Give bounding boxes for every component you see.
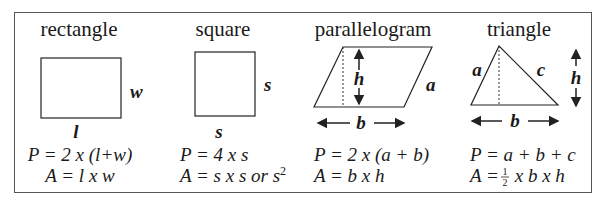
square-side-label-bottom: s [214, 121, 222, 142]
triangle-side-label-left: a [472, 59, 482, 80]
parallelogram-perimeter-formula: P = 2 x (a + b) [313, 144, 429, 166]
triangle-height-label: h [571, 67, 582, 88]
square-shape [195, 52, 255, 116]
parallelogram-panel: parallelogram h a b P = 2 x (a + b) A = … [312, 17, 436, 186]
square-area-exponent: 2 [280, 164, 286, 178]
square-side-label-right: s [263, 74, 271, 95]
triangle-panel: triangle a c h b P = a + b + c A = 1 2 x… [468, 17, 581, 188]
rectangle-title: rectangle [41, 17, 118, 41]
triangle-area-fraction-denominator: 2 [503, 177, 508, 188]
parallelogram-side-label: a [426, 74, 436, 95]
rectangle-width-label: w [130, 81, 143, 102]
rectangle-perimeter-formula: P = 2 x (l+w) [27, 144, 132, 166]
square-panel: square s s P = 4 x s A = s x s or s2 [178, 17, 286, 186]
square-area-formula: A = s x s or s2 [178, 164, 286, 186]
square-area-main: A = s x s or s [178, 165, 280, 186]
triangle-title: triangle [487, 17, 551, 41]
triangle-area-prefix: A = [468, 165, 504, 186]
rectangle-panel: rectangle w l P = 2 x (l+w) A = l x w [27, 17, 143, 186]
parallelogram-area-formula: A = b x h [312, 165, 385, 186]
parallelogram-shape [314, 47, 432, 107]
parallelogram-height-label: h [354, 68, 365, 89]
rectangle-shape [41, 58, 121, 118]
triangle-perimeter-formula: P = a + b + c [469, 144, 576, 165]
rectangle-length-label: l [73, 121, 79, 142]
shapes-diagram: rectangle w l P = 2 x (l+w) A = l x w sq… [0, 0, 609, 204]
rectangle-area-formula: A = l x w [43, 165, 115, 186]
parallelogram-base-label: b [356, 112, 366, 133]
triangle-base-label: b [510, 110, 520, 131]
parallelogram-title: parallelogram [315, 17, 432, 41]
triangle-area-fraction-numerator: 1 [503, 166, 508, 177]
triangle-side-label-right: c [537, 59, 546, 80]
square-perimeter-formula: P = 4 x s [179, 144, 248, 165]
triangle-area-suffix: x b x h [510, 165, 565, 186]
square-title: square [196, 17, 251, 41]
